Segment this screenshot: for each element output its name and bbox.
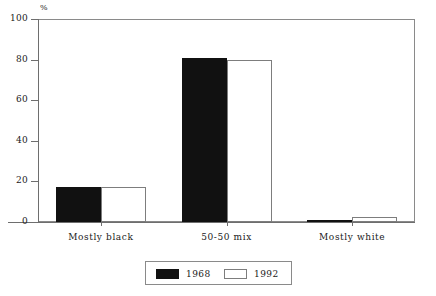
bar-1968-50-50-mix bbox=[182, 58, 227, 222]
legend-item-1992: 1992 bbox=[224, 268, 279, 280]
outlined-white-swatch bbox=[224, 269, 247, 279]
bar-1968-mostly-black bbox=[56, 187, 101, 222]
bar-1992-mostly-black bbox=[101, 187, 146, 222]
bar-1968-mostly-white bbox=[307, 220, 352, 222]
filled-black-swatch bbox=[156, 269, 179, 279]
x-axis-tick bbox=[227, 222, 228, 226]
x-axis-category-label: Mostly white bbox=[282, 232, 422, 242]
x-axis-category-label: Mostly black bbox=[31, 232, 171, 242]
x-axis-category-label: 50-50 mix bbox=[157, 232, 297, 242]
legend-label: 1968 bbox=[186, 269, 211, 279]
legend: 19681992 bbox=[145, 261, 292, 285]
x-axis-tick bbox=[101, 222, 102, 226]
bar-series-layer bbox=[0, 0, 436, 296]
bar-1992-50-50-mix bbox=[227, 60, 272, 222]
legend-label: 1992 bbox=[254, 269, 279, 279]
bar-chart: % 020406080100 Mostly black50-50 mixMost… bbox=[0, 0, 436, 296]
legend-item-1968: 1968 bbox=[156, 268, 211, 280]
bar-1992-mostly-white bbox=[352, 217, 397, 222]
x-axis-tick bbox=[352, 222, 353, 226]
